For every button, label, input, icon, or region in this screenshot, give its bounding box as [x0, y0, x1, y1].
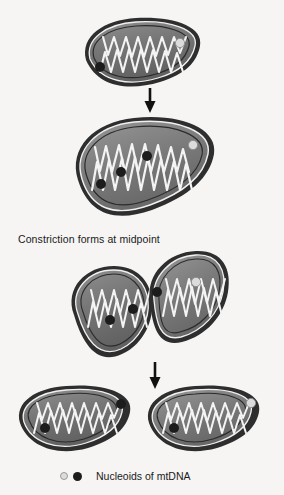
stage-3-constricted-mitochondrion [72, 251, 229, 357]
nucleoid-light [175, 38, 184, 47]
stage-4-daughter-right [148, 385, 259, 451]
nucleoid-dark [95, 62, 105, 72]
nucleoid-dark [169, 423, 179, 433]
legend: Nucleoids of mtDNA [60, 470, 191, 482]
nucleoid-light [188, 140, 197, 149]
nucleoid-dark [105, 315, 115, 325]
light-nucleoid-marker-icon [60, 472, 68, 480]
nucleoid-dark [40, 423, 50, 433]
diagram-canvas [0, 0, 284, 495]
nucleoid-dark [142, 151, 152, 161]
stage-4-daughter-left [19, 385, 130, 451]
nucleoid-dark [96, 179, 106, 189]
nucleoid-dark [116, 399, 126, 409]
nucleoid-dark [128, 304, 138, 314]
nucleoid-light [191, 277, 200, 286]
caption-constriction: Constriction forms at midpoint [18, 233, 160, 245]
nucleoid-light [246, 398, 255, 407]
mitochondrial-division-figure: Constriction forms at midpoint Nucleoids… [0, 0, 284, 495]
stage-1-parent-mitochondrion [85, 18, 200, 87]
division-arrow-top [145, 88, 156, 113]
stage-2-elongated-mitochondrion [76, 117, 214, 216]
legend-label: Nucleoids of mtDNA [96, 470, 191, 482]
division-arrow-bottom [150, 362, 161, 389]
dark-nucleoid-marker-icon [73, 472, 82, 481]
nucleoid-dark [116, 167, 126, 177]
nucleoid-dark [152, 287, 162, 297]
